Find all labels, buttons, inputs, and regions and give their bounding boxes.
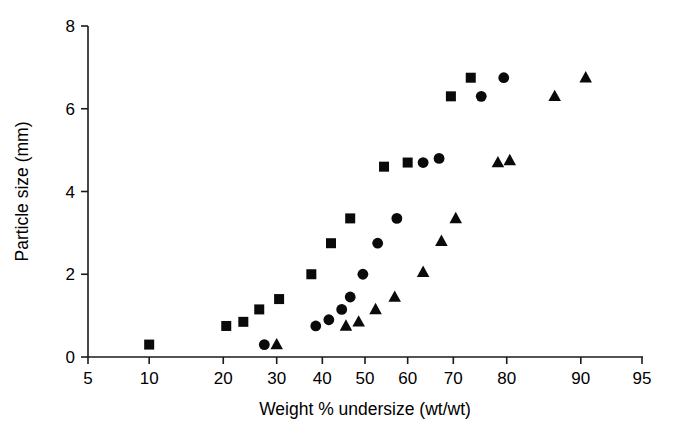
x-tick-label: 80 <box>497 369 516 388</box>
data-point-square <box>221 321 231 331</box>
data-point-triangle <box>579 71 592 82</box>
data-point-square <box>306 269 316 279</box>
data-point-triangle <box>388 290 401 301</box>
data-point-square <box>254 304 264 314</box>
data-point-circle <box>357 269 368 280</box>
data-point-square <box>144 340 154 350</box>
data-point-circle <box>476 91 487 102</box>
scatter-plot-canvas: 51020304050607080909502468Weight % under… <box>0 0 683 439</box>
data-point-circle <box>345 292 356 303</box>
x-tick-label: 5 <box>83 369 92 388</box>
data-point-square <box>446 91 456 101</box>
x-tick-label: 95 <box>633 369 652 388</box>
x-tick-label: 50 <box>356 369 375 388</box>
data-point-circle <box>336 304 347 315</box>
data-point-circle <box>310 321 321 332</box>
data-point-triangle <box>270 338 283 349</box>
data-point-circle <box>391 213 402 224</box>
y-tick-label: 8 <box>66 17 75 36</box>
data-point-triangle <box>340 319 353 330</box>
data-point-square <box>379 162 389 172</box>
data-point-square <box>345 213 355 223</box>
x-tick-label: 90 <box>571 369 590 388</box>
y-tick-label: 0 <box>66 348 75 367</box>
data-point-circle <box>418 157 429 168</box>
y-tick-label: 2 <box>66 265 75 284</box>
data-point-triangle <box>352 315 365 326</box>
x-tick-label: 20 <box>214 369 233 388</box>
data-point-circle <box>372 238 383 249</box>
data-point-triangle <box>449 212 462 223</box>
x-tick-label: 30 <box>267 369 286 388</box>
data-point-triangle <box>435 235 448 246</box>
data-point-square <box>403 158 413 168</box>
x-tick-label: 10 <box>140 369 159 388</box>
data-point-circle <box>323 314 334 325</box>
data-point-square <box>274 294 284 304</box>
data-point-square <box>238 317 248 327</box>
data-point-circle <box>259 339 270 350</box>
x-axis-title: Weight % undersize (wt/wt) <box>259 399 471 419</box>
y-tick-label: 4 <box>66 183 75 202</box>
data-point-circle <box>434 153 445 164</box>
chart-figure: 51020304050607080909502468Weight % under… <box>0 0 683 439</box>
y-tick-label: 6 <box>66 100 75 119</box>
data-point-triangle <box>369 303 382 314</box>
data-point-triangle <box>548 90 561 101</box>
data-point-circle <box>498 72 509 83</box>
x-tick-label: 70 <box>444 369 463 388</box>
y-axis-title: Particle size (mm) <box>12 121 32 261</box>
data-point-triangle <box>492 156 505 167</box>
x-tick-label: 40 <box>313 369 332 388</box>
data-point-triangle <box>417 266 430 277</box>
data-point-triangle <box>503 154 516 165</box>
data-point-square <box>466 73 476 83</box>
x-tick-label: 60 <box>398 369 417 388</box>
data-point-square <box>326 238 336 248</box>
